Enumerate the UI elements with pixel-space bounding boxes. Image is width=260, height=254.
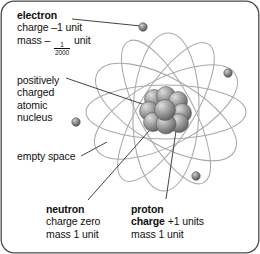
nucleon-sphere-center: [155, 100, 176, 121]
atom-diagram-figure: electron charge –1 unit mass – 1 2000 un…: [0, 0, 260, 254]
proton-charge-bold: charge: [131, 215, 165, 227]
proton-label-heading: proton: [131, 203, 204, 215]
electron-label: electron charge –1 unit mass – 1 2000 un…: [17, 9, 91, 56]
proton-label-charge: charge +1 units: [131, 215, 204, 227]
electron-particle-top: [139, 23, 147, 31]
leader-nucleus-line: [66, 78, 151, 107]
leader-neutron-line: [88, 122, 157, 200]
electron-label-mass: mass – 1 2000 unit: [17, 34, 91, 56]
fraction-denominator: 2000: [54, 49, 70, 56]
fraction-numerator: 1: [59, 41, 65, 48]
electron-mass-suffix: unit: [74, 34, 91, 46]
electron-label-heading: electron: [17, 9, 91, 21]
neutron-label: neutron charge zero mass 1 unit: [46, 203, 100, 240]
electron-mass-fraction: 1 2000: [54, 41, 70, 56]
nucleus-label-line3: atomic: [17, 99, 59, 111]
empty-space-label-text: empty space: [17, 150, 75, 162]
leader-empty-space-line: [81, 142, 107, 156]
proton-charge-value: +1 units: [168, 215, 204, 227]
neutron-label-mass: mass 1 unit: [46, 228, 100, 240]
empty-space-label: empty space: [17, 150, 75, 162]
proton-label-mass: mass 1 unit: [131, 228, 204, 240]
nucleus-label: positively charged atomic nucleus: [17, 74, 59, 124]
proton-label: proton charge +1 units mass 1 unit: [131, 203, 204, 240]
leader-proton-line: [166, 124, 177, 199]
electron-label-charge: charge –1 unit: [17, 21, 91, 33]
nucleus-label-line4: nucleus: [17, 111, 59, 123]
neutron-label-charge: charge zero: [46, 215, 100, 227]
electron-particle-left: [72, 118, 80, 126]
electron-particle-right: [224, 69, 232, 77]
electron-particle-bottom-right: [192, 172, 200, 180]
electron-mass-prefix: mass –: [17, 34, 50, 46]
neutron-label-heading: neutron: [46, 203, 100, 215]
nucleus-label-line1: positively: [17, 74, 59, 86]
atomic-nucleus: [140, 87, 192, 135]
nucleus-label-line2: charged: [17, 86, 59, 98]
